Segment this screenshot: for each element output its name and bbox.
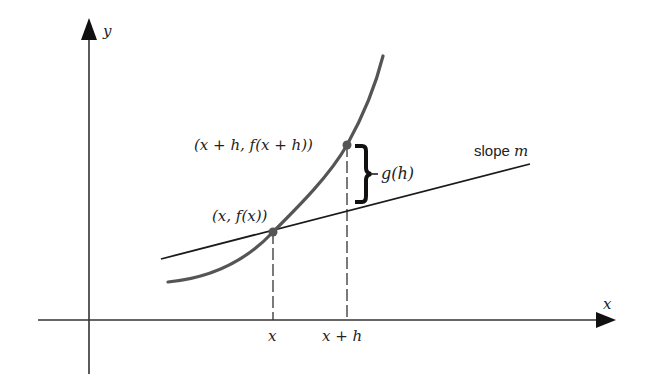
brace-icon xyxy=(355,146,371,202)
diagram-canvas: y x (x, f(x)) (x + h, f(x + h)) g(h) slo… xyxy=(0,0,646,388)
brace-label-g-h: g(h) xyxy=(381,164,414,183)
point-x-fx xyxy=(269,228,278,237)
point-x-plus-h xyxy=(343,141,352,150)
slope-label-text: slope xyxy=(474,142,514,159)
y-axis-label: y xyxy=(102,22,112,40)
slope-label-var: m xyxy=(514,142,528,160)
x-axis-label: x xyxy=(603,295,612,313)
slope-label: slope m xyxy=(474,142,528,160)
y-axis-arrow-icon xyxy=(81,18,97,40)
x-axis-arrow-icon xyxy=(596,312,616,328)
point-label-x-fx: (x, f(x)) xyxy=(212,207,268,225)
point-label-x-plus-h: (x + h, f(x + h)) xyxy=(194,136,313,154)
tick-label-x-plus-h: x + h xyxy=(322,327,362,345)
tick-label-x: x xyxy=(268,327,277,345)
